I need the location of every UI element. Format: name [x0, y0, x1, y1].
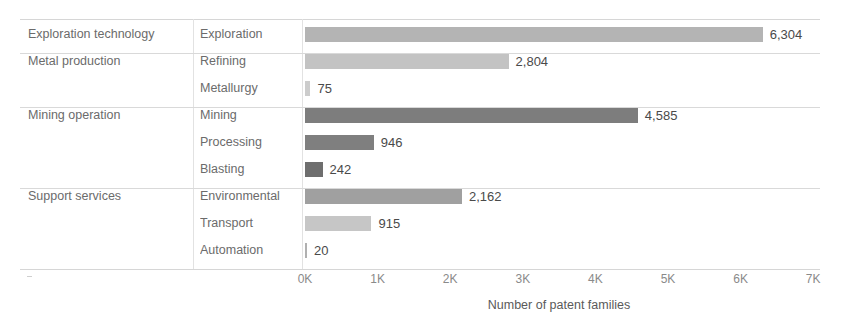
bar [305, 243, 307, 258]
bar [305, 108, 638, 123]
category-label: Automation [200, 237, 300, 264]
x-tick-label: 0K [285, 272, 325, 286]
bar [305, 27, 763, 42]
x-tick-label: 1K [358, 272, 398, 286]
bar [305, 135, 374, 150]
table-row: Metallurgy75 [0, 75, 848, 102]
group-label [28, 210, 188, 237]
x-tick-label: 3K [503, 272, 543, 286]
bar-value-label: 946 [381, 129, 403, 156]
chart-plot-area: Exploration technologyExploration6,304Me… [0, 19, 848, 269]
table-top-rule [20, 19, 820, 20]
x-axis-tick-labels: 0K1K2K3K4K5K6K7K [0, 272, 848, 290]
table-row: Exploration technologyExploration6,304 [0, 21, 848, 48]
bar-value-label: 242 [330, 156, 352, 183]
table-row: Processing946 [0, 129, 848, 156]
group-label: Exploration technology [28, 21, 188, 48]
bar-cell: 75 [305, 75, 848, 102]
x-tick-label: 5K [648, 272, 688, 286]
category-label: Exploration [200, 21, 300, 48]
group-separator [20, 53, 820, 54]
group-separator [20, 188, 820, 189]
group-label [28, 156, 188, 183]
bar-cell: 946 [305, 129, 848, 156]
x-axis-line [20, 269, 820, 270]
bar [305, 216, 371, 231]
patent-families-bar-chart: Exploration technologyExploration6,304Me… [0, 0, 848, 325]
group-label [28, 237, 188, 264]
bar [305, 81, 310, 96]
table-row: Blasting242 [0, 156, 848, 183]
bar-cell: 6,304 [305, 21, 848, 48]
bar-cell: 20 [305, 237, 848, 264]
group-label [28, 129, 188, 156]
x-tick-label: 6K [721, 272, 761, 286]
bar-value-label: 915 [378, 210, 400, 237]
bar [305, 54, 509, 69]
bar-cell: 242 [305, 156, 848, 183]
x-tick-label: 7K [793, 272, 833, 286]
bar-cell: 915 [305, 210, 848, 237]
category-label: Metallurgy [200, 75, 300, 102]
group-label [28, 75, 188, 102]
x-tick-label: 4K [575, 272, 615, 286]
x-axis-title: Number of patent families [305, 298, 813, 312]
bar-value-label: 6,304 [770, 21, 803, 48]
bar-value-label: 75 [317, 75, 331, 102]
table-row: Automation20 [0, 237, 848, 264]
bar-value-label: 20 [314, 237, 328, 264]
x-tick-label: 2K [430, 272, 470, 286]
group-separator [20, 107, 820, 108]
category-label: Transport [200, 210, 300, 237]
category-label: Processing [200, 129, 300, 156]
bar [305, 189, 462, 204]
bar [305, 162, 323, 177]
table-row: Transport915 [0, 210, 848, 237]
category-label: Blasting [200, 156, 300, 183]
